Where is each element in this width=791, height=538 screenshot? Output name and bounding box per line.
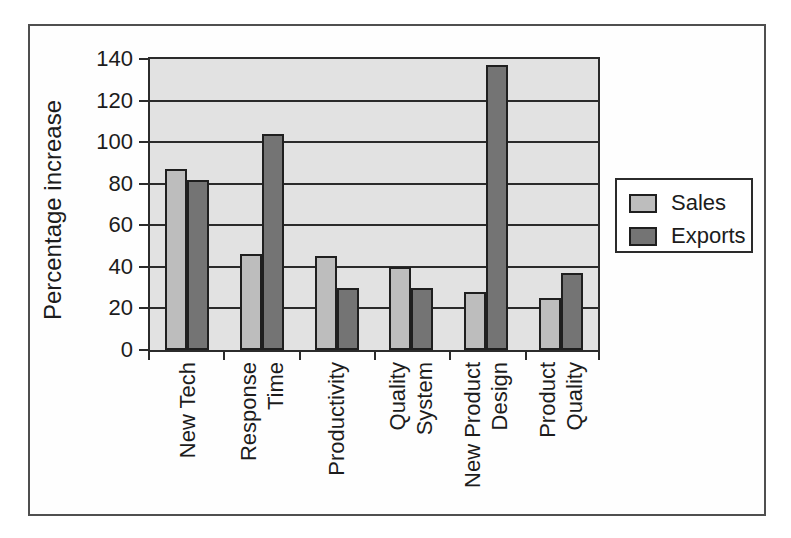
y-axis-tick-120 — [139, 100, 148, 102]
legend-item-sales: Sales — [629, 191, 751, 215]
y-tick-label-60: 60 — [63, 213, 133, 237]
bar-exports-productivity — [337, 288, 359, 350]
y-axis-tick-140 — [139, 58, 148, 60]
bar-exports-new-product-design — [486, 65, 508, 350]
legend-label-exports: Exports — [671, 224, 746, 248]
x-label-productivity: Productivity — [323, 362, 350, 532]
y-axis-tick-0 — [139, 349, 148, 351]
x-label-quality-system: Quality System — [384, 362, 438, 532]
bar-sales-new-product-design — [464, 292, 486, 350]
legend: SalesExports — [615, 178, 753, 253]
y-tick-label-20: 20 — [63, 296, 133, 320]
y-axis-tick-100 — [139, 141, 148, 143]
bar-sales-response-time — [240, 254, 262, 350]
y-tick-label-0: 0 — [63, 338, 133, 362]
bar-exports-new-tech — [187, 180, 209, 350]
y-tick-label-80: 80 — [63, 172, 133, 196]
x-axis-tick-5 — [525, 352, 527, 360]
legend-swatch-sales — [629, 194, 657, 213]
y-tick-label-120: 120 — [63, 89, 133, 113]
gridline-80 — [150, 183, 598, 185]
bar-sales-new-tech — [165, 169, 187, 350]
bar-exports-response-time — [262, 134, 284, 350]
bar-sales-product-quality — [539, 298, 561, 350]
gridline-20 — [150, 307, 598, 309]
y-tick-label-140: 140 — [63, 47, 133, 71]
bar-exports-quality-system — [411, 288, 433, 350]
y-tick-label-40: 40 — [63, 255, 133, 279]
gridline-100 — [150, 141, 598, 143]
legend-swatch-exports — [629, 227, 657, 246]
y-axis-tick-60 — [139, 224, 148, 226]
y-axis-tick-80 — [139, 183, 148, 185]
x-axis-tick-6 — [598, 352, 600, 360]
x-axis-tick-1 — [223, 352, 225, 360]
figure-canvas: Percentage increase 020406080100120140Ne… — [0, 0, 791, 538]
y-axis-tick-40 — [139, 266, 148, 268]
x-label-product-quality: Product Quality — [534, 362, 588, 532]
legend-item-exports: Exports — [629, 224, 751, 248]
x-axis-tick-2 — [299, 352, 301, 360]
gridline-60 — [150, 224, 598, 226]
x-label-response-time: Response Time — [235, 362, 289, 532]
x-axis-tick-0 — [148, 352, 150, 360]
bar-sales-quality-system — [389, 267, 411, 350]
x-axis-tick-3 — [374, 352, 376, 360]
x-axis-tick-4 — [449, 352, 451, 360]
y-tick-label-100: 100 — [63, 130, 133, 154]
legend-label-sales: Sales — [671, 191, 726, 215]
y-axis-tick-20 — [139, 307, 148, 309]
x-label-new-tech: New Tech — [174, 362, 201, 532]
bar-exports-product-quality — [561, 273, 583, 350]
gridline-120 — [150, 100, 598, 102]
plot-area — [148, 57, 600, 352]
x-label-new-product-design: New Product Design — [459, 362, 513, 532]
gridline-40 — [150, 266, 598, 268]
bar-sales-productivity — [315, 256, 337, 350]
